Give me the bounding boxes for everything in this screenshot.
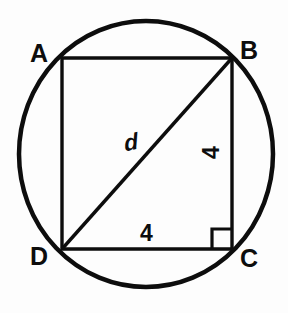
vertex-label-b: B	[240, 38, 258, 63]
vertex-label-d: D	[30, 244, 48, 269]
diagonal-length-label-d: d	[123, 130, 139, 156]
side-length-label-dc: 4	[140, 222, 153, 245]
right-angle-marker-icon	[212, 229, 232, 249]
side-length-label-bc: 4	[200, 146, 223, 159]
vertex-label-a: A	[30, 41, 48, 66]
geometry-figure: A B C D 4 4 d	[0, 0, 288, 313]
vertex-label-c: C	[240, 246, 258, 271]
